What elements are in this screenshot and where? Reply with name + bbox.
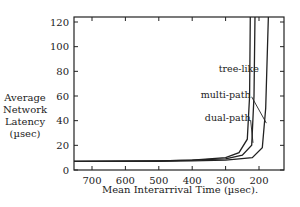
y-label-line: Latency <box>2 116 48 128</box>
y-tick-label: 40 <box>56 115 69 126</box>
plot-frame <box>74 17 284 170</box>
y-tick-label: 0 <box>63 165 69 176</box>
y-label-line: Average <box>2 92 48 104</box>
annotation-dual-path: dual-path <box>205 112 251 123</box>
y-tick-label: 60 <box>56 91 69 102</box>
annotation-tree-like: tree-like <box>219 63 260 74</box>
curve-annotations: tree-likemulti-pathdual-path <box>201 63 267 143</box>
y-tick-label: 120 <box>50 17 69 28</box>
x-axis-label: Mean Interarrival Time (µsec). <box>80 184 280 195</box>
y-axis-label: Average Network Latency (µsec) <box>2 92 48 140</box>
annotation-multi-path: multi-path <box>201 89 251 100</box>
y-tick-label: 20 <box>56 140 69 151</box>
y-tick-label: 100 <box>50 41 69 52</box>
y-label-line: Network <box>2 104 48 116</box>
y-label-line: (µsec) <box>2 128 48 140</box>
y-tick-label: 80 <box>56 66 69 77</box>
